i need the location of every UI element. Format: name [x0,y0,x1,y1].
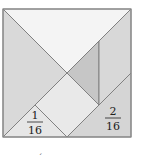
fraction-denominator: 16 [106,120,120,133]
fraction-numerator: 1 [32,109,39,122]
fraction-numerator: 2 [110,105,117,118]
tangram-figure: 1 16 2 16 ´ [0,0,160,165]
fraction-denominator: 16 [28,124,42,137]
footnote-mark: ´ [38,153,43,163]
